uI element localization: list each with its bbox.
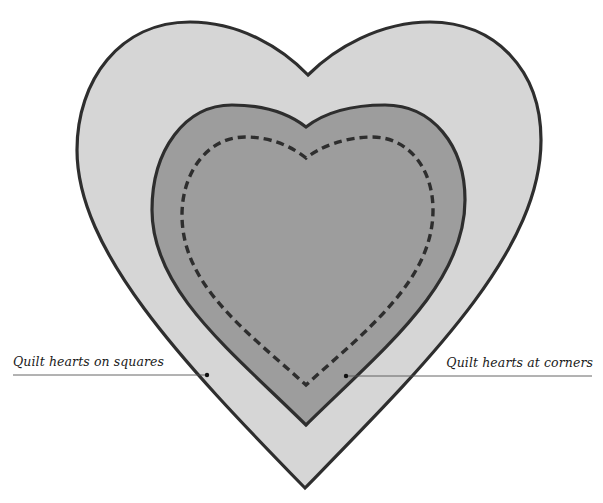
annotation-quilt-hearts-at-corners: Quilt hearts at corners xyxy=(446,355,593,370)
leader-dot-left xyxy=(205,373,209,377)
annotation-quilt-hearts-on-squares: Quilt hearts on squares xyxy=(13,354,164,369)
heart-quilting-diagram: Quilt hearts on squares Quilt hearts at … xyxy=(0,0,603,503)
leader-dot-right xyxy=(344,374,348,378)
diagram-canvas xyxy=(0,0,603,503)
